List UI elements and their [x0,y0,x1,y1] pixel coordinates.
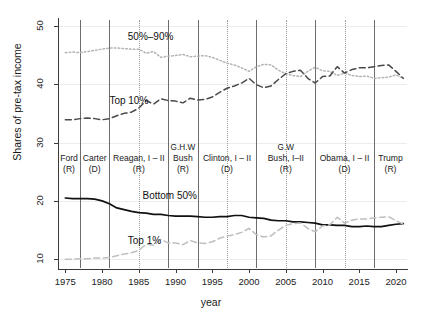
x-tick [323,269,324,273]
x-tick [176,269,177,273]
series-path [65,48,403,78]
annotation-top10: Top 10% [109,95,148,106]
plot-area [58,20,407,268]
x-tick-label: 2000 [235,276,263,287]
president-prefix: G.W [246,142,326,153]
y-tick-label: 50 [34,14,45,36]
x-tick-label: 1990 [162,276,190,287]
chart-figure: 1020304050 19751980198519901995200020052… [0,0,422,316]
president-name: Trump [351,153,422,164]
series-path [65,217,403,260]
x-axis-line [58,269,408,270]
president-prefix: G.H.W [143,142,223,153]
x-axis-title: year [0,296,422,308]
y-tick [54,143,58,144]
x-tick-label: 2010 [309,276,337,287]
y-tick [54,84,58,85]
x-tick [359,269,360,273]
president-party: (R) [351,164,422,175]
series-lines [58,20,407,268]
y-tick-label: 30 [34,131,45,153]
y-tick-label: 40 [34,73,45,95]
x-tick [212,269,213,273]
annotation-top1: Top 1% [128,235,161,246]
y-axis-title: Shares of pre-tax income [11,37,23,167]
annotation-5090: 50%–90% [128,31,174,42]
x-tick [102,269,103,273]
series-path [65,65,403,120]
x-tick-label: 1995 [198,276,226,287]
y-tick [54,201,58,202]
x-tick-label: 2015 [345,276,373,287]
y-tick [54,259,58,260]
annotation-bottom50: Bottom 50% [143,190,197,201]
x-tick [396,269,397,273]
y-tick-label: 10 [34,248,45,270]
x-tick-label: 2020 [382,276,410,287]
x-tick-label: 2005 [272,276,300,287]
president-label-trump: Trump(R) [351,153,422,175]
y-tick-label: 20 [34,189,45,211]
y-tick [54,26,58,27]
x-tick [65,269,66,273]
x-tick-label: 1975 [51,276,79,287]
x-tick-label: 1985 [125,276,153,287]
x-tick [139,269,140,273]
y-axis-line [58,18,59,270]
series-path [65,198,403,227]
x-tick [249,269,250,273]
x-tick [286,269,287,273]
x-tick-label: 1980 [88,276,116,287]
